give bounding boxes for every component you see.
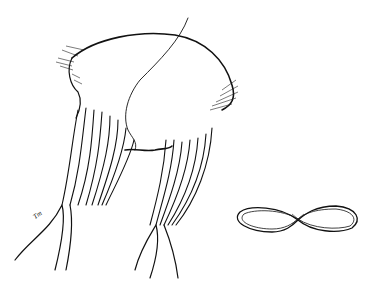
left-papillary-muscle-2 xyxy=(66,205,72,270)
right-papillary-muscle-2 xyxy=(164,225,178,278)
suture-line xyxy=(126,18,188,150)
leaflet-outline xyxy=(72,34,234,110)
left-chordae xyxy=(62,108,134,205)
valve-illustration xyxy=(0,0,370,289)
leaflet-left-edge xyxy=(69,58,80,118)
right-papillary-muscle-1 xyxy=(135,225,158,278)
right-chordae xyxy=(150,128,212,225)
inset-orifice xyxy=(237,206,357,232)
